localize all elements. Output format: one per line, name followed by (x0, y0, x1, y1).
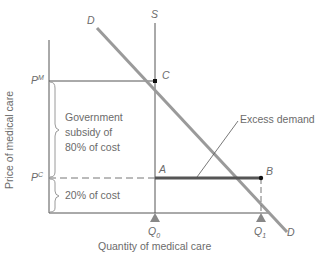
excess-demand-pointer (197, 121, 238, 177)
demand-curve (97, 28, 287, 232)
point-b-marker (259, 176, 263, 180)
point-a-label: A (159, 164, 166, 175)
subsidy-line-1: Government (65, 112, 123, 123)
demand-label-top: D (87, 15, 95, 26)
subsidy-brace (50, 82, 59, 177)
point-c-label: C (162, 70, 170, 81)
supply-label: S (151, 9, 158, 20)
diagram-canvas (0, 0, 319, 256)
point-b-label: B (266, 166, 273, 177)
excess-demand-label: Excess demand (240, 114, 315, 125)
q0-arrow-icon (150, 213, 160, 222)
demand-label-bottom: D (287, 227, 295, 238)
q0-label: Q0 (148, 226, 160, 237)
subsidy-line-3: 80% of cost (65, 142, 120, 153)
subsidy-line-2: subsidy of (65, 127, 112, 138)
q1-label: Q1 (254, 226, 266, 237)
q1-arrow-icon (256, 213, 266, 222)
consumer-share-brace (50, 179, 59, 212)
x-axis-label: Quantity of medical care (98, 241, 211, 252)
point-c-marker (153, 79, 157, 83)
pm-label: PM (31, 75, 44, 86)
consumer-share-label: 20% of cost (65, 190, 120, 201)
pc-label: PC (31, 172, 43, 183)
